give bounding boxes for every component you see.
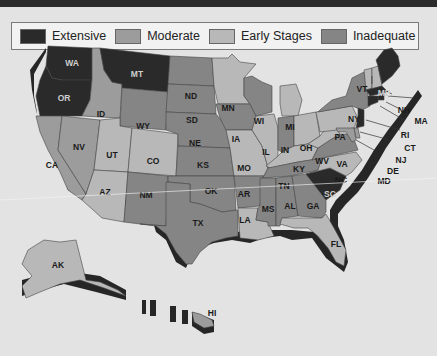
label-sc: SC (324, 189, 336, 199)
label-az: AZ (99, 187, 110, 197)
label-or: OR (58, 93, 71, 103)
label-co: CO (147, 156, 160, 166)
label-ca: CA (46, 160, 58, 170)
label-mn: MN (221, 103, 234, 113)
label-mt: MT (131, 69, 144, 79)
label-ct: CT (404, 143, 416, 153)
label-al: AL (284, 201, 295, 211)
label-wy: WY (136, 121, 150, 131)
label-vt: VT (357, 84, 369, 94)
label-wv: WV (315, 156, 329, 166)
label-sd: SD (186, 115, 198, 125)
us-map: WA OR MT ID CA NV WY UT CO AZ NM ND SD N… (0, 0, 437, 356)
label-ar: AR (238, 189, 250, 199)
label-pa: PA (334, 132, 345, 142)
state-co[interactable] (128, 128, 178, 176)
label-nm: NM (139, 190, 152, 200)
label-id: ID (97, 109, 106, 119)
label-ri: RI (401, 130, 410, 140)
label-nd: ND (185, 91, 197, 101)
label-wi: WI (254, 116, 264, 126)
label-ks: KS (197, 160, 209, 170)
label-nv: NV (73, 142, 85, 152)
label-ne: NE (189, 138, 201, 148)
label-ok: OK (205, 186, 219, 196)
label-ms: MS (262, 204, 275, 214)
label-de: DE (387, 166, 399, 176)
label-mi: MI (285, 122, 294, 132)
label-ky: KY (293, 164, 305, 174)
label-fl: FL (331, 239, 341, 249)
label-ma: MA (414, 116, 427, 126)
label-tx: TX (193, 218, 204, 228)
label-va: VA (336, 159, 347, 169)
label-nj: NJ (396, 155, 407, 165)
label-ga: GA (307, 201, 320, 211)
label-nc: NC (335, 175, 347, 185)
label-il: IL (262, 147, 270, 157)
label-me: ME (378, 88, 391, 98)
state-ct[interactable] (368, 96, 378, 106)
label-ny: NY (348, 114, 360, 124)
label-la: LA (239, 215, 250, 225)
label-ut: UT (106, 150, 118, 160)
label-ia: IA (232, 134, 241, 144)
label-oh: OH (300, 143, 313, 153)
label-wa: WA (65, 58, 79, 68)
label-mo: MO (237, 163, 251, 173)
label-hi: HI (208, 308, 217, 318)
state-ak[interactable] (22, 240, 126, 298)
state-mi[interactable] (280, 84, 302, 116)
state-nd[interactable] (168, 56, 214, 86)
label-ak: AK (52, 260, 65, 270)
label-nh: NH (398, 105, 410, 115)
label-in: IN (281, 145, 290, 155)
